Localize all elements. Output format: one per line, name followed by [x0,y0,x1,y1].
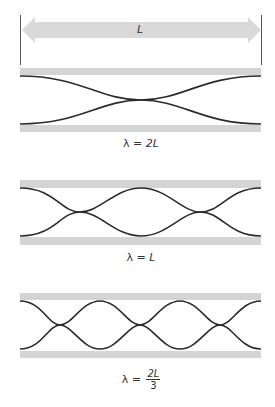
wavelength-label-2: λ = L [0,251,275,264]
bottom-bar [20,351,261,358]
fraction-denominator: 3 [146,380,160,391]
wavelength-label-1: λ = 2L [0,137,275,150]
label-prefix: λ = [123,137,146,150]
panel-fundamental [20,68,261,132]
label-value: L [149,251,155,264]
top-bar [20,180,261,188]
top-bar [20,68,261,75]
fraction-numerator: 2L [146,368,160,380]
wave-curve-a [20,188,261,236]
label-prefix: λ = [127,251,150,264]
panel-second-harmonic [20,180,261,245]
top-bar [20,293,261,300]
panel-third-harmonic [20,293,261,358]
fraction: 2L3 [146,368,160,391]
label-value: 2L [146,137,159,150]
length-label: L [137,23,143,36]
bottom-bar [20,125,261,132]
standing-wave-diagram [0,0,275,407]
wave-curve-b [20,188,261,236]
wavelength-label-3: λ = 2L3 [0,368,275,391]
label-prefix: λ = [122,373,145,386]
bottom-bar [20,237,261,245]
wave-curve-b [20,76,261,124]
wave-curve-b [20,301,261,349]
